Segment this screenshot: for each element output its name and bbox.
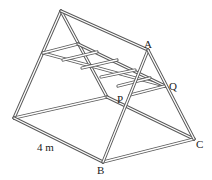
- label-length: 4 m: [37, 141, 54, 153]
- frame-tubes: [14, 11, 194, 162]
- climbing-frame-diagram: .tube-o { stroke:#5a5a5a; stroke-width:3…: [0, 0, 212, 180]
- label-Q: Q: [169, 80, 177, 92]
- label-P: P: [117, 93, 123, 105]
- base-left-side: [14, 118, 103, 162]
- label-C: C: [196, 138, 203, 150]
- label-A: A: [144, 38, 152, 50]
- back-left-leg: [14, 11, 61, 118]
- back-base: [14, 97, 107, 118]
- label-B: B: [97, 164, 104, 176]
- front-base-BC: [103, 139, 194, 162]
- front-leg-AC: [148, 50, 194, 139]
